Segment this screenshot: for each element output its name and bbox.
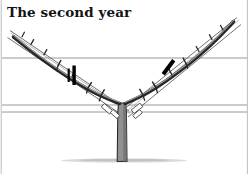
left-pruning-cut-mark <box>72 66 75 86</box>
figure-container: The second year <box>0 0 249 174</box>
left-pruning-cut-mark-secondary <box>68 69 70 83</box>
page-title: The second year <box>7 4 131 20</box>
trunk-shading <box>123 103 127 161</box>
pruning-diagram-illustration <box>0 0 249 174</box>
central-trunk <box>117 103 128 162</box>
